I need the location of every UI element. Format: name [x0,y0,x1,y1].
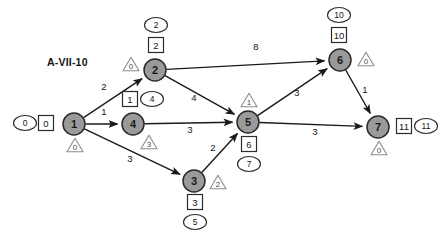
node-1[interactable]: 0001 [14,113,86,152]
node-label-3: 3 [191,175,197,187]
edge-weight-1-3: 3 [127,153,132,164]
edge-weight-3-5: 2 [210,142,215,153]
diagram-canvas: A-VII-10 0001220253234134761510100611110… [0,0,444,241]
square-badge-value-node-3: 3 [192,197,197,208]
triangle-badge-value-node-2: 0 [129,62,134,71]
edge-weight-4-5: 3 [187,124,192,135]
network-graph: 00012202532341347615101006111107 2138432… [0,0,444,241]
edge-5-to-7 [259,122,362,126]
ellipse-badge-value-node-7: 11 [422,121,431,131]
triangle-badge-value-node-3: 2 [216,180,221,189]
triangle-badge-value-node-4: 3 [147,140,152,149]
edge-2-to-5 [165,76,234,115]
triangle-badge-value-node-7: 0 [377,146,382,155]
square-badge-value-node-4: 1 [127,94,132,105]
nodes-layer: 00012202532341347615101006111107 [14,8,438,230]
node-label-1: 1 [71,118,77,130]
node-7[interactable]: 111107 [367,116,438,155]
square-badge-value-node-5: 6 [246,139,251,150]
square-badge-value-node-1: 0 [43,118,48,129]
triangle-badge-value-node-1: 0 [73,143,78,152]
edge-5-to-6 [258,69,328,116]
node-label-6: 6 [337,54,343,66]
ellipse-badge-value-node-6: 10 [334,10,344,20]
square-badge-value-node-2: 2 [153,40,158,51]
edge-3-to-5 [202,133,238,172]
edge-weight-5-7: 3 [312,126,317,137]
ellipse-badge-value-node-5: 7 [247,159,252,169]
node-5[interactable]: 7615 [237,93,261,171]
node-label-4: 4 [130,118,137,130]
node-3[interactable]: 5323 [183,170,226,230]
node-label-5: 5 [245,116,251,128]
ellipse-badge-value-node-4: 4 [150,94,155,104]
edge-weight-5-6: 3 [294,87,299,98]
edge-1-to-3 [84,129,180,174]
edge-weight-1-2: 2 [101,81,106,92]
node-4[interactable]: 4134 [122,92,164,150]
node-2[interactable]: 2202 [123,18,168,82]
square-badge-value-node-6: 10 [334,30,345,41]
edge-weight-6-7: 1 [362,84,367,95]
triangle-badge-value-node-5: 1 [247,98,252,107]
ellipse-badge-value-node-2: 2 [154,20,159,30]
edge-weight-2-6: 8 [253,41,258,52]
ellipse-badge-value-node-3: 5 [193,217,198,227]
node-6[interactable]: 101006 [328,8,375,72]
triangle-badge-value-node-6: 0 [364,57,369,66]
square-badge-value-node-7: 11 [399,121,409,132]
ellipse-badge-value-node-1: 0 [23,118,28,128]
node-label-2: 2 [152,64,158,76]
edge-weight-2-5: 4 [191,92,196,103]
node-label-7: 7 [375,121,381,133]
edge-weight-1-4: 1 [101,106,106,117]
edge-2-to-6 [166,61,324,70]
